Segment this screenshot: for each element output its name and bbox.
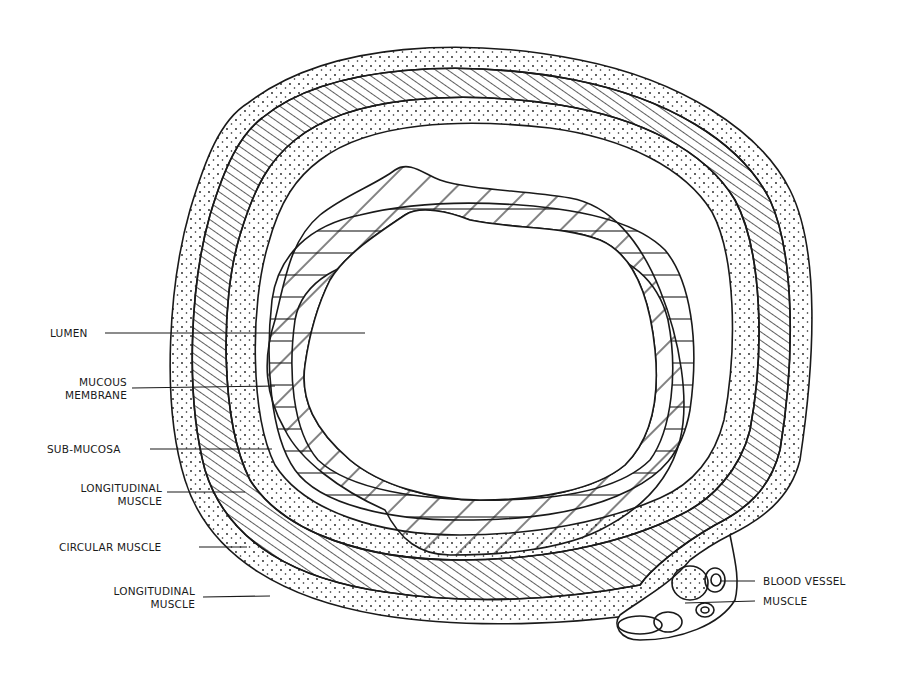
label-lumen-text: LUMEN <box>50 327 88 339</box>
label-longitudinal-muscle-outer: LONGITUDINAL MUSCLE <box>80 585 195 611</box>
label-sub-mucosa: SUB-MUCOSA <box>47 443 121 456</box>
label-longitudinal-text: LONGITUDINAL <box>80 585 195 598</box>
label-muscle: MUSCLE <box>763 595 807 608</box>
label-blood-vessel: BLOOD VESSEL <box>763 575 846 588</box>
label-longitudinal-text: LONGITUDINAL <box>45 482 162 495</box>
label-membrane-text: MEMBRANE <box>62 389 127 402</box>
label-mucous-text: MUCOUS <box>62 376 127 389</box>
label-circular-muscle: CIRCULAR MUSCLE <box>59 541 161 554</box>
label-blood-vessel-text: BLOOD VESSEL <box>763 575 846 587</box>
label-longitudinal-muscle-inner: LONGITUDINAL MUSCLE <box>45 482 162 508</box>
muscle-bundle <box>672 566 708 600</box>
label-muscle-text: MUSCLE <box>80 598 195 611</box>
leader-longitudinal-muscle-outer <box>203 596 270 597</box>
label-circular-muscle-text: CIRCULAR MUSCLE <box>59 541 161 553</box>
label-lumen: LUMEN <box>50 327 88 340</box>
diagram-canvas: LUMEN MUCOUS MEMBRANE SUB-MUCOSA LONGITU… <box>0 0 905 679</box>
lumen-cavity <box>304 210 656 500</box>
label-mucous-membrane: MUCOUS MEMBRANE <box>62 376 127 402</box>
label-muscle-text: MUSCLE <box>45 495 162 508</box>
label-muscle-text: MUSCLE <box>763 595 807 607</box>
label-sub-mucosa-text: SUB-MUCOSA <box>47 443 121 455</box>
